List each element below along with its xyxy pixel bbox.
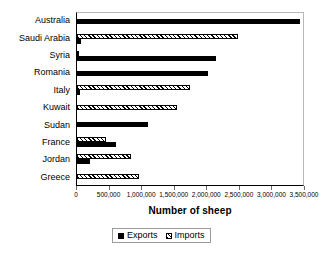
category-label: Greece bbox=[0, 169, 74, 186]
hatched-swatch-icon bbox=[166, 233, 172, 239]
x-axis-tick-label: 2,000,000 bbox=[192, 190, 221, 200]
x-axis-tick-label: 2,500,000 bbox=[224, 190, 253, 200]
category-label: Syria bbox=[0, 47, 74, 64]
bar-group bbox=[77, 13, 303, 30]
bar-group bbox=[77, 151, 303, 168]
category-axis: AustraliaSaudi ArabiaSyriaRomaniaItalyKu… bbox=[0, 12, 74, 186]
bar-exports bbox=[77, 122, 148, 127]
bar-exports bbox=[77, 39, 81, 44]
x-axis-tick-label: 3,000,000 bbox=[257, 190, 286, 200]
category-label: Saudi Arabia bbox=[0, 29, 74, 46]
bar-imports bbox=[77, 85, 190, 90]
bar-imports bbox=[77, 174, 139, 179]
bar-exports bbox=[77, 71, 208, 76]
bar-group bbox=[77, 168, 303, 185]
x-axis-tick-labels: 0500,0001,000,0001,500,0002,000,0002,500… bbox=[0, 190, 336, 202]
category-label: Sudan bbox=[0, 116, 74, 133]
bar-group bbox=[77, 47, 303, 64]
x-axis-title: Number of sheep bbox=[76, 205, 304, 216]
bar-exports bbox=[77, 90, 80, 95]
x-axis-tick-label: 1,000,000 bbox=[127, 190, 156, 200]
sheep-exports-imports-bar-chart: AustraliaSaudi ArabiaSyriaRomaniaItalyKu… bbox=[0, 0, 336, 253]
x-axis-tick-label: 3,500,000 bbox=[290, 190, 319, 200]
category-label: Italy bbox=[0, 82, 74, 99]
legend-item-imports: Imports bbox=[166, 230, 205, 241]
bar-imports bbox=[77, 105, 177, 110]
bar-exports bbox=[77, 19, 300, 24]
bar-group bbox=[77, 30, 303, 47]
bar-imports bbox=[77, 34, 238, 39]
legend-label-imports: Imports bbox=[175, 230, 205, 241]
bar-exports bbox=[77, 159, 90, 164]
category-label: Romania bbox=[0, 64, 74, 81]
plot-area bbox=[76, 12, 304, 186]
bar-group bbox=[77, 65, 303, 82]
category-label: Jordan bbox=[0, 151, 74, 168]
solid-black-swatch-icon bbox=[118, 233, 124, 239]
bar-group bbox=[77, 99, 303, 116]
chart-legend: Exports Imports bbox=[112, 228, 211, 243]
bar-rows bbox=[77, 13, 303, 185]
x-axis-tick-label: 500,000 bbox=[97, 190, 121, 200]
x-axis-tick-label: 0 bbox=[74, 190, 78, 200]
category-label: Australia bbox=[0, 12, 74, 29]
x-axis-tick-label: 1,500,000 bbox=[159, 190, 188, 200]
bar-exports bbox=[77, 142, 116, 147]
legend-label-exports: Exports bbox=[127, 230, 158, 241]
bar-group bbox=[77, 82, 303, 99]
legend-item-exports: Exports bbox=[118, 230, 158, 241]
bar-exports bbox=[77, 56, 216, 61]
bar-group bbox=[77, 133, 303, 150]
category-label: France bbox=[0, 134, 74, 151]
bar-group bbox=[77, 116, 303, 133]
category-label: Kuwait bbox=[0, 99, 74, 116]
